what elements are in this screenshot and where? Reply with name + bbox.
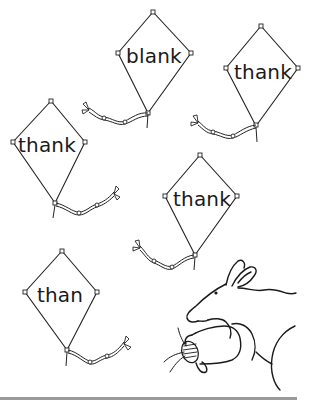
kite-1 — [82, 10, 193, 128]
kite-word-1: blank — [126, 46, 182, 66]
bottom-rule — [0, 397, 297, 400]
kangaroo-illustration — [164, 260, 296, 390]
kite-4 — [133, 153, 239, 270]
kite-5 — [23, 249, 131, 366]
kite-word-4: thank — [173, 189, 231, 209]
kite-word-2: thank — [234, 62, 292, 82]
kite-word-3: thank — [18, 135, 76, 155]
kite-word-5: than — [37, 285, 83, 305]
